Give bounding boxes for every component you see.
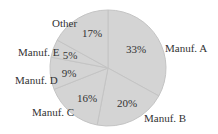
slice-category-label: Manuf. C [32,106,74,118]
slice-category-label: Manuf. D [15,74,58,86]
pie-chart: 33%Manuf. A20%Manuf. B16%Manuf. C9%Manuf… [0,0,218,134]
slice-value-label: 9% [62,67,77,79]
slice-category-label: Manuf. E [18,46,60,58]
slice-value-label: 33% [126,43,146,55]
slice-value-label: 20% [117,97,137,109]
slice-value-label: 16% [77,92,97,104]
slice-value-label: 5% [63,49,78,61]
slice-category-label: Manuf. A [165,42,207,54]
slice-value-label: 17% [82,27,102,39]
slice-category-label: Other [52,17,77,29]
slice-category-label: Manuf. B [144,112,186,124]
